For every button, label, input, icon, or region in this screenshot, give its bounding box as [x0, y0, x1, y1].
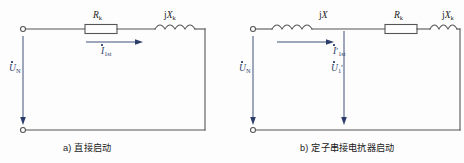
label-voltage-un: UN: [9, 64, 21, 74]
resistor-rk-body: [85, 25, 117, 34]
label-resistor-b-rk: Rk: [394, 11, 403, 21]
inductor-jx-coil: [272, 25, 312, 29]
label-current-i1st: I1st: [101, 47, 112, 57]
voltage-arrow-u1p-head: [341, 117, 347, 125]
top-left-terminal-b: [251, 27, 256, 32]
circuit-figure: Rk jXk I1st UN a) 直接启动: [0, 0, 464, 163]
label-voltage-un-b: UN: [239, 64, 251, 74]
label-inductor-jxk: jXk: [164, 11, 176, 21]
circuit-a-diagram: [0, 0, 232, 163]
bottom-left-terminal-b: [251, 128, 256, 133]
label-resistor-rk: Rk: [93, 11, 102, 21]
voltage-arrow-un-b-head: [250, 117, 256, 125]
voltage-arrow-un-head: [20, 117, 26, 125]
top-left-terminal: [21, 27, 26, 32]
label-voltage-u1-prime: U1′: [331, 64, 343, 74]
inductor-b-jxk-coil: [430, 25, 457, 29]
circuit-b-diagram: [232, 0, 464, 163]
inductor-jxk-coil: [155, 25, 195, 29]
label-inductor-jx: jX: [319, 11, 327, 21]
label-inductor-b-jxk: jXk: [442, 11, 454, 21]
current-arrow-i1st-head: [135, 39, 143, 44]
resistor-b-rk-body: [385, 25, 417, 34]
label-current-i1st-prime: I′1st: [333, 47, 346, 57]
caption-circuit-b: b) 定子串接电抗器启动: [300, 140, 394, 154]
bottom-left-terminal: [21, 128, 26, 133]
caption-circuit-a: a) 直接启动: [63, 140, 111, 154]
